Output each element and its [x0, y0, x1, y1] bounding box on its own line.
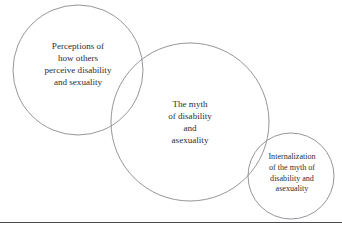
- venn-diagram: Perceptions of how others perceive disab…: [0, 0, 342, 234]
- internalization-circle: [248, 133, 334, 219]
- myth-circle: [111, 43, 269, 201]
- venn-circles-canvas: [0, 0, 342, 234]
- perceptions-circle: [13, 5, 143, 135]
- footer-divider: [0, 222, 342, 223]
